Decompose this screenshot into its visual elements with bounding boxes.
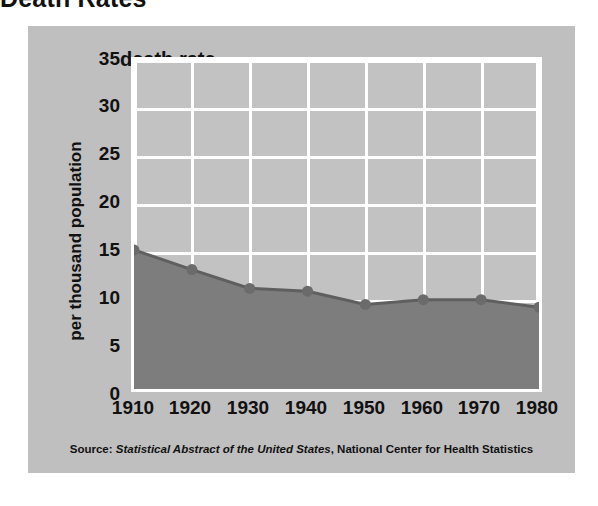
y-tick-label: 15 — [60, 239, 120, 261]
data-point-marker — [302, 286, 313, 297]
y-tick-label: 5 — [60, 335, 120, 357]
source-prefix: Source: — [70, 443, 113, 455]
data-point-marker — [186, 264, 197, 275]
plot-inner — [134, 60, 539, 389]
x-tick-label: 1980 — [492, 397, 582, 419]
source-suffix: , National Center for Health Statistics — [331, 443, 534, 455]
data-point-marker — [418, 294, 429, 305]
y-tick-label: 20 — [60, 191, 120, 213]
data-point-marker — [476, 294, 487, 305]
y-tick-label: 25 — [60, 143, 120, 165]
plot-area — [131, 57, 542, 392]
y-tick-label: 10 — [60, 287, 120, 309]
source-note: Source: Statistical Abstract of the Unit… — [28, 443, 575, 455]
page-title: Death Rates — [0, 0, 300, 12]
death-rate-series — [134, 60, 539, 389]
y-tick-label: 35 — [60, 48, 120, 70]
figure-panel: death rate per thousand population 35 30… — [28, 26, 575, 473]
data-point-marker — [360, 299, 371, 310]
source-publication: Statistical Abstract of the United State… — [116, 443, 331, 455]
y-tick-label: 30 — [60, 95, 120, 117]
data-point-marker — [244, 283, 255, 294]
